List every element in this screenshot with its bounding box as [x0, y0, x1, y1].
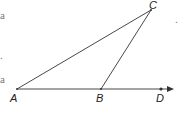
point-a-dot: [16, 88, 18, 90]
arrowhead-icon: [167, 86, 174, 92]
margin-fragment-3: a: [0, 74, 5, 85]
triangle-figure: [0, 0, 180, 117]
segment-ac: [17, 10, 151, 89]
label-b: B: [96, 93, 103, 104]
segment-bc: [101, 10, 151, 89]
margin-fragment-2: .: [0, 50, 3, 61]
point-d-dot: [159, 87, 162, 90]
label-c: C: [149, 0, 157, 11]
margin-fragment-right: .: [175, 14, 178, 25]
label-a: A: [10, 93, 17, 104]
label-d: D: [156, 93, 164, 104]
point-b-dot: [100, 88, 102, 90]
margin-fragment-1: a: [0, 10, 5, 21]
